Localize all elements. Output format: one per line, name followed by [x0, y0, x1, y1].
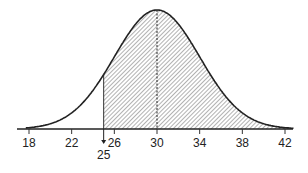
shaded-area — [104, 10, 291, 129]
x-tick-label: 22 — [65, 136, 79, 150]
x-tick-label: 42 — [278, 136, 292, 150]
x-tick-label: 38 — [236, 136, 250, 150]
x-tick-label: 30 — [150, 136, 164, 150]
x-axis-ticks: 18222630343842 — [22, 129, 292, 150]
x-tick-label: 34 — [193, 136, 207, 150]
x-tick-label: 18 — [22, 136, 36, 150]
marker-label: 25 — [97, 148, 111, 162]
arrow-head-icon — [101, 140, 106, 144]
normal-curve-chart: 18222630343842 25 — [0, 0, 308, 173]
